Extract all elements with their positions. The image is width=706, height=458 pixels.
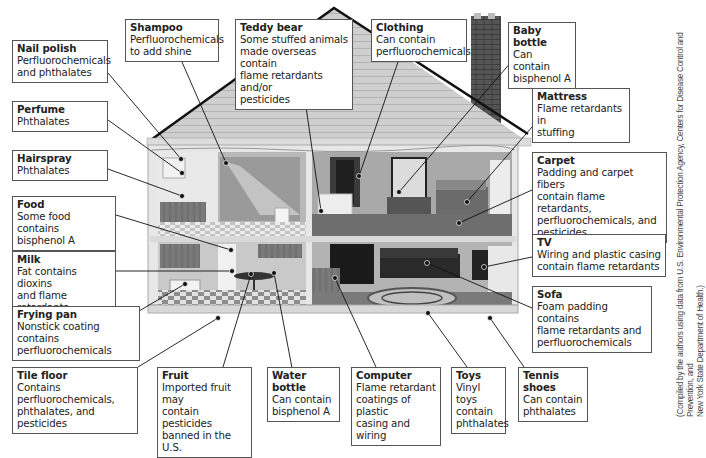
callout-text: Can contain bisphenol A [513,49,571,85]
callout-text: Can contain perfluorochemicals [376,34,462,58]
callout-title: Clothing [376,22,462,34]
callout-title: Baby bottle [513,25,571,49]
callout-text: Vinyl toys contain phthalates [456,382,501,430]
callout-title: Water bottle [272,370,335,394]
callout-text: Contains perfluorochemicals, phthalates,… [17,382,133,430]
callout-title: Food [17,199,111,211]
callout-text: Nonstick coating contains perfluorochemi… [17,321,135,357]
callout-text: Imported fruit may contain pesticides ba… [162,382,247,454]
callout-toys: Toys Vinyl toys contain phthalates [451,367,506,434]
callout-title: Hairspray [17,153,103,165]
callout-title: Sofa [537,289,647,301]
callout-tennis-shoes: Tennis shoes Can contain phthalates [518,367,588,422]
callout-nail-polish: Nail polish Perfluorochemicals and phtha… [12,40,108,83]
callout-text: Flame retardants in stuffing [537,103,625,139]
callout-perfume: Perfume Phthalates [12,101,108,132]
callout-hairspray: Hairspray Phthalates [12,150,108,181]
callout-text: Padding and carpet fibers contain flame … [537,167,662,239]
callout-text: Can contain phthalates [523,394,583,418]
callout-mattress: Mattress Flame retardants in stuffing [532,88,630,143]
callout-text: Foam padding contains flame retardants a… [537,301,647,349]
callout-frying-pan: Frying pan Nonstick coating contains per… [12,306,140,361]
callout-title: Shampoo [130,22,214,34]
callout-tile-floor: Tile floor Contains perfluorochemicals, … [12,367,138,434]
callout-tv: TV Wiring and plastic casing contain fla… [532,234,666,277]
callout-text: Wiring and plastic casing contain flame … [537,249,661,273]
callout-title: Computer [356,370,436,382]
callout-clothing: Clothing Can contain perfluorochemicals [371,19,467,62]
callout-water-bottle: Water bottle Can contain bisphenol A [267,367,340,422]
callout-text: Can contain bisphenol A [272,394,335,418]
callout-title: Tile floor [17,370,133,382]
callout-baby-bottle: Baby bottle Can contain bisphenol A [508,22,576,89]
callout-title: Carpet [537,155,662,167]
source-credit: (Compiled by the authors using data from… [676,7,706,417]
callout-text: Perfluorochemicals and phthalates [17,55,103,79]
callout-fruit: Fruit Imported fruit may contain pestici… [157,367,252,458]
callout-title: Toys [456,370,501,382]
callout-teddy-bear: Teddy bear Some stuffed animals made ove… [235,19,353,110]
callout-title: Teddy bear [240,22,348,34]
callout-title: Milk [17,254,111,266]
callout-text: Phthalates [17,116,103,128]
callout-title: Nail polish [17,43,103,55]
callout-title: Tennis shoes [523,370,583,394]
callout-food: Food Some food contains bisphenol A [12,196,116,251]
callout-text: Flame retardant coatings of plastic casi… [356,382,436,442]
callout-text: Some stuffed animals made overseas conta… [240,34,348,106]
callout-title: Frying pan [17,309,135,321]
callout-text: Perfluorochemicals to add shine [130,34,214,58]
callout-text: Some food contains bisphenol A [17,211,111,247]
callout-title: Perfume [17,104,103,116]
callout-shampoo: Shampoo Perfluorochemicals to add shine [125,19,219,62]
callout-text: Phthalates [17,165,103,177]
callout-sofa: Sofa Foam padding contains flame retarda… [532,286,652,353]
callout-computer: Computer Flame retardant coatings of pla… [351,367,441,446]
callout-title: Mattress [537,91,625,103]
callout-title: Fruit [162,370,247,382]
callout-title: TV [537,237,661,249]
callout-carpet: Carpet Padding and carpet fibers contain… [532,152,667,243]
